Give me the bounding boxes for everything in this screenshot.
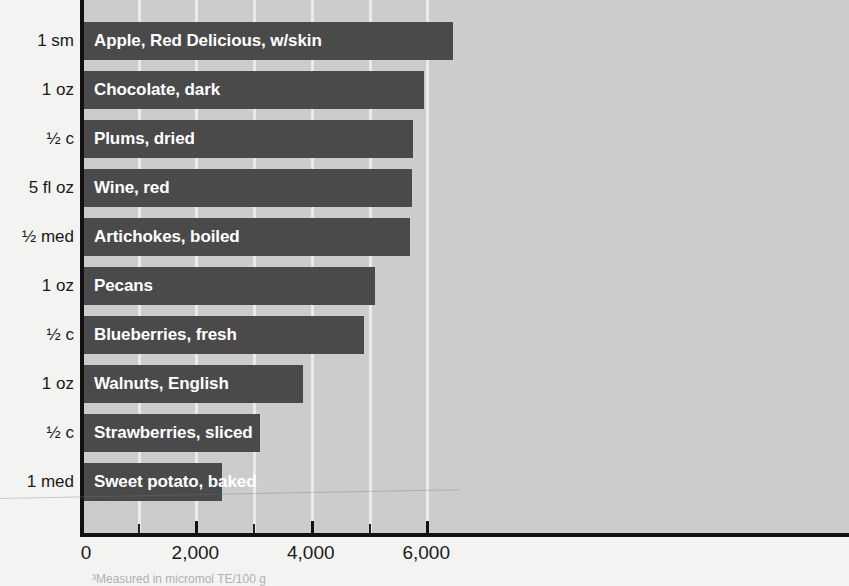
bar-row: Artichokes, boiled — [84, 218, 849, 256]
x-axis-line — [80, 533, 849, 537]
bar-row: Plums, dried — [84, 120, 849, 158]
x-tick-label: 4,000 — [287, 542, 335, 564]
serving-size-label: ½ c — [47, 316, 74, 354]
bar-label: Apple, Red Delicious, w/skin — [94, 22, 322, 60]
bar-row: Blueberries, fresh — [84, 316, 849, 354]
chart-footnote: ³Measured in micromol TE/100 g — [92, 572, 266, 586]
x-tick-label: 2,000 — [172, 542, 220, 564]
serving-size-label: 1 oz — [42, 71, 74, 109]
serving-size-label: 1 sm — [37, 22, 74, 60]
bar-label: Pecans — [94, 267, 153, 305]
bar-row: Sweet potato, baked — [84, 463, 849, 501]
bar-label: Chocolate, dark — [94, 71, 220, 109]
bar-row: Strawberries, sliced — [84, 414, 849, 452]
bar-label: Strawberries, sliced — [94, 414, 253, 452]
x-tick-minor — [253, 524, 255, 533]
serving-size-label: ½ med — [22, 218, 74, 256]
bar-label: Blueberries, fresh — [94, 316, 237, 354]
category-axis-labels: 1 sm1 oz½ c5 fl oz½ med1 oz½ c1 oz½ c1 m… — [0, 0, 74, 533]
x-tick-major — [311, 521, 314, 533]
serving-size-label: 1 oz — [42, 365, 74, 403]
bar-row: Wine, red — [84, 169, 849, 207]
x-tick-minor — [138, 524, 140, 533]
x-tick-minor — [369, 524, 371, 533]
x-tick-label: 0 — [81, 542, 92, 564]
serving-size-label: ½ c — [47, 414, 74, 452]
bar-row: Chocolate, dark — [84, 71, 849, 109]
bar-row: Pecans — [84, 267, 849, 305]
bar-row: Walnuts, English — [84, 365, 849, 403]
serving-size-label: 1 oz — [42, 267, 74, 305]
bar-row: Apple, Red Delicious, w/skin — [84, 22, 849, 60]
x-tick-major — [426, 521, 429, 533]
serving-size-label: 5 fl oz — [29, 169, 74, 207]
bar-label: Plums, dried — [94, 120, 195, 158]
horizontal-bar-chart: 1 sm1 oz½ c5 fl oz½ med1 oz½ c1 oz½ c1 m… — [0, 0, 849, 586]
serving-size-label: 1 med — [27, 463, 74, 501]
bar-rows: Apple, Red Delicious, w/skinChocolate, d… — [84, 0, 849, 533]
bar-label: Artichokes, boiled — [94, 218, 240, 256]
x-tick-label: 6,000 — [402, 542, 450, 564]
bar-label: Walnuts, English — [94, 365, 229, 403]
serving-size-label: ½ c — [47, 120, 74, 158]
plot-panel: Apple, Red Delicious, w/skinChocolate, d… — [80, 0, 849, 533]
bar-label: Wine, red — [94, 169, 169, 207]
x-tick-major — [195, 521, 198, 533]
